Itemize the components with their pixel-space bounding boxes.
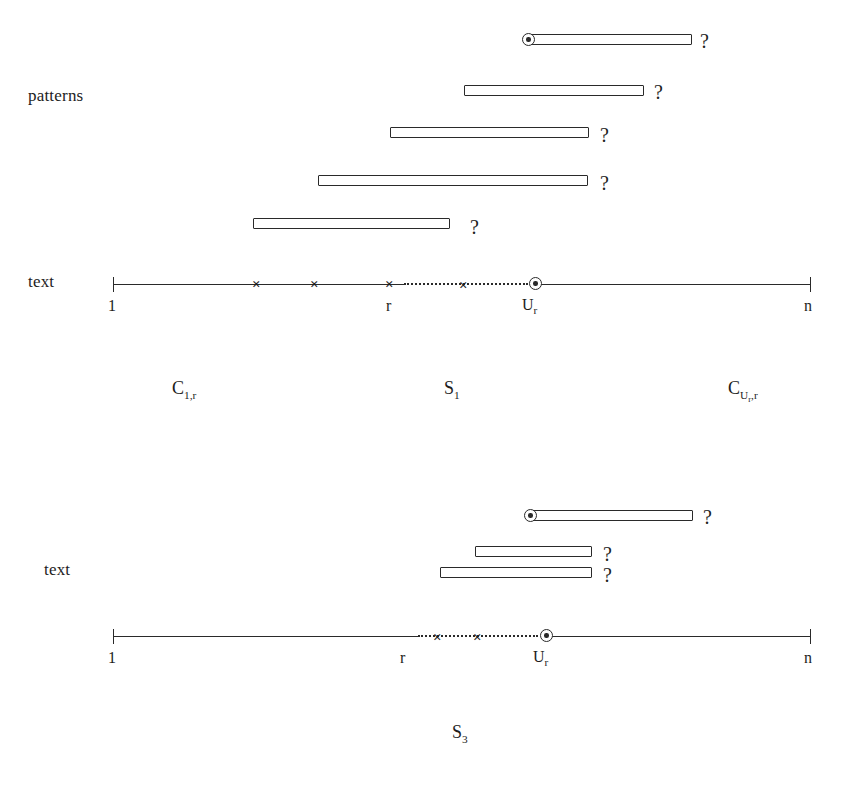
pattern-question-1: ? — [700, 30, 709, 53]
set-label-c-1-r: C1,r — [172, 378, 196, 401]
set-label-s-1-base: S — [444, 378, 454, 398]
row-label-text-panel2: text — [44, 560, 70, 580]
x-mark-2-panel1: × — [310, 277, 319, 292]
text-axis-solid-right-panel2 — [547, 636, 810, 637]
x-mark-3-panel1: × — [385, 277, 394, 292]
axis-label-r-panel1: r — [386, 297, 391, 315]
axis-label-ur-panel1: Ur — [522, 296, 537, 316]
set-label-s-3-base: S — [452, 722, 462, 742]
circled-dot-marker-axis-panel2 — [540, 629, 553, 642]
pattern-question-8: ? — [603, 564, 612, 587]
axis-tick-start-panel1 — [113, 277, 114, 292]
axis-label-start-panel2: 1 — [108, 649, 116, 667]
pattern-question-4: ? — [600, 172, 609, 195]
pattern-question-2: ? — [654, 81, 663, 104]
set-label-c-ur-r: CUr,r — [728, 378, 758, 404]
set-label-c-ur-r-sub-tail: ,r — [751, 389, 758, 401]
axis-label-ur-base-panel1: U — [522, 296, 534, 313]
set-label-s-1-sub: 1 — [454, 389, 460, 401]
circled-dot-marker-pattern-1 — [522, 33, 535, 46]
pattern-question-7: ? — [603, 543, 612, 566]
pattern-bar-1 — [528, 34, 692, 45]
set-label-s-3-sub: 3 — [462, 733, 468, 745]
pattern-bar-7 — [475, 546, 592, 557]
row-label-text-panel1: text — [28, 272, 54, 292]
pattern-bar-3 — [390, 127, 589, 138]
axis-label-r-panel2: r — [400, 649, 405, 667]
figure-canvas: patterns text ? ? ? ? ? × × × × 1 r Ur n… — [0, 0, 848, 785]
pattern-question-6: ? — [703, 506, 712, 529]
pattern-bar-4 — [318, 175, 588, 186]
x-mark-1-panel1: × — [252, 277, 261, 292]
axis-label-end-panel1: n — [804, 297, 812, 315]
x-mark-2-panel2: × — [473, 630, 482, 645]
axis-tick-end-panel1 — [810, 277, 811, 292]
circled-dot-marker-axis-panel1 — [529, 277, 542, 290]
x-mark-4-panel1: × — [459, 278, 468, 293]
pattern-bar-2 — [464, 85, 644, 96]
set-label-c-ur-r-sub-u: U — [740, 389, 748, 401]
set-label-c-1-r-base: C — [172, 378, 184, 398]
pattern-bar-6 — [530, 510, 693, 521]
set-label-c-ur-r-base: C — [728, 378, 740, 398]
x-mark-1-panel2: × — [433, 630, 442, 645]
set-label-c-ur-r-sub: Ur,r — [740, 389, 758, 401]
axis-label-ur-sub-panel2: r — [545, 656, 549, 668]
axis-label-ur-sub-panel1: r — [534, 304, 538, 316]
axis-label-ur-panel2: Ur — [533, 648, 548, 668]
axis-label-ur-base-panel2: U — [533, 648, 545, 665]
axis-label-start-panel1: 1 — [108, 297, 116, 315]
set-label-s-3: S3 — [452, 722, 468, 745]
axis-label-end-panel2: n — [804, 649, 812, 667]
axis-tick-start-panel2 — [113, 629, 114, 644]
text-axis-solid-right-panel1 — [537, 284, 810, 285]
set-label-c-1-r-sub: 1,r — [184, 389, 196, 401]
pattern-question-3: ? — [600, 124, 609, 147]
pattern-bar-8 — [440, 567, 592, 578]
set-label-s-1: S1 — [444, 378, 460, 401]
axis-tick-end-panel2 — [810, 629, 811, 644]
pattern-bar-5 — [253, 218, 450, 229]
row-label-patterns: patterns — [28, 86, 83, 106]
text-axis-solid-left-panel2 — [113, 636, 418, 637]
circled-dot-marker-pattern-6 — [524, 509, 537, 522]
pattern-question-5: ? — [470, 216, 479, 239]
